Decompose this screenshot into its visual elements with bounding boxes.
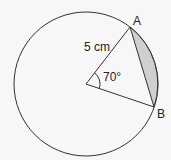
shaded-segment	[130, 27, 158, 107]
point-label-b: B	[157, 107, 165, 121]
angle-label: 70°	[103, 70, 121, 84]
radius-OB	[86, 84, 154, 107]
angle-arc	[95, 73, 100, 89]
point-label-a: A	[133, 14, 141, 28]
circle-diagram: A B 5 cm 70°	[0, 0, 171, 160]
radius-label: 5 cm	[84, 40, 110, 54]
